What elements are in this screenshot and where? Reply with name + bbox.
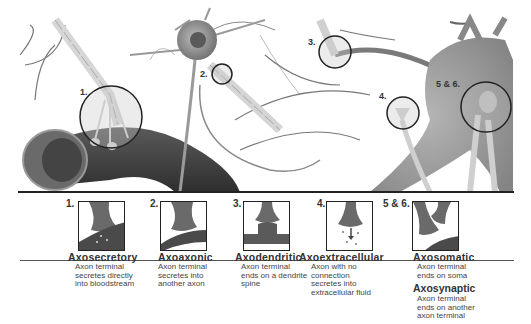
callout-label-4: 4. — [379, 91, 387, 101]
axosomatic-thumbnail — [412, 201, 459, 251]
panel-description: Axon terminal ends on a dendrite spine — [241, 263, 307, 289]
panel-number: 5 & 6. — [383, 198, 410, 209]
neuron-illustration: 1. 2. 3. 4. 5 & 6. — [0, 0, 531, 195]
axoextracellular-thumbnail — [326, 201, 373, 251]
callout-label-5-6: 5 & 6. — [436, 79, 460, 89]
illustration-baseline — [18, 191, 514, 193]
callout-circle-1 — [80, 86, 142, 148]
callout-circle-4 — [387, 97, 419, 129]
panel-number: 4. — [317, 198, 325, 209]
panel-description: Axon terminal ends on soma — [417, 263, 467, 280]
panel-description-secondary: Axon terminal ends on another axon termi… — [417, 295, 475, 321]
neuron-scene-graphic — [0, 0, 531, 195]
axodendritic-thumbnail — [243, 201, 290, 251]
synapse-extracellular-graphic — [327, 202, 373, 251]
panel-title-secondary: Axosynaptic — [413, 282, 475, 294]
callout-circle-3 — [319, 36, 351, 68]
panel-number: 3. — [233, 198, 241, 209]
axoaxonic-thumbnail — [160, 201, 207, 251]
panel-number: 2. — [150, 198, 158, 209]
panel-number: 1. — [66, 198, 74, 209]
panel-description: Axon terminal secretes directly into blo… — [75, 263, 134, 289]
synapse-soma-graphic — [413, 202, 459, 251]
callout-label-3: 3. — [308, 37, 316, 47]
panel-description: Axon terminal secretes into another axon — [158, 263, 207, 289]
callout-label-1: 1. — [80, 87, 88, 97]
callout-circle-5-6 — [461, 82, 511, 132]
panel-description: Axon with no connection secretes into ex… — [311, 263, 371, 297]
synapse-bloodstream-graphic — [79, 202, 125, 251]
callout-circle-2 — [212, 64, 232, 84]
axosecretory-thumbnail — [78, 201, 125, 251]
callout-label-2: 2. — [200, 69, 208, 79]
synapse-dendrite-graphic — [244, 202, 290, 251]
synapse-axon-graphic — [161, 202, 207, 251]
